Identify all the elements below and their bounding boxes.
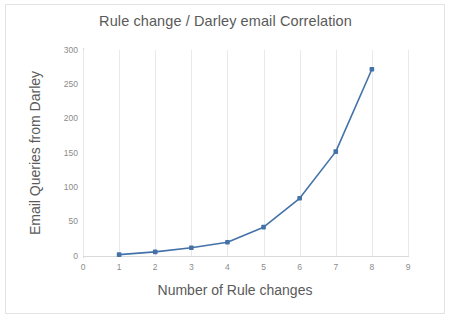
x-axis-title: Number of Rule changes: [60, 282, 410, 298]
series-line: [119, 69, 372, 254]
x-tick-label: 2: [145, 262, 165, 272]
y-axis-tick-labels: 050100150200250300: [52, 50, 78, 256]
chart-title: Rule change / Darley email Correlation: [0, 13, 451, 29]
chart-screenshot: Rule change / Darley email Correlation 0…: [0, 0, 451, 322]
y-tick-label: 100: [54, 183, 78, 192]
y-tick-label: 150: [54, 149, 78, 158]
line-series: [83, 50, 408, 256]
x-axis-tick-labels: 0123456789: [83, 262, 408, 274]
y-tick-label: 0: [54, 252, 78, 261]
x-tick-label: 1: [109, 262, 129, 272]
data-point-marker: [153, 250, 158, 255]
gridline-vertical: [408, 50, 409, 256]
y-axis-title: Email Queries from Darley: [27, 48, 43, 258]
x-axis-line: [83, 256, 409, 257]
y-tick-label: 250: [54, 80, 78, 89]
x-tick-label: 5: [254, 262, 274, 272]
x-tick-label: 6: [290, 262, 310, 272]
x-tick-label: 8: [362, 262, 382, 272]
x-tick-label: 7: [326, 262, 346, 272]
x-tick-label: 3: [181, 262, 201, 272]
y-tick-label: 200: [54, 114, 78, 123]
data-point-marker: [333, 149, 338, 154]
data-point-marker: [117, 252, 122, 257]
x-tick-label: 4: [217, 262, 237, 272]
data-point-marker: [261, 225, 266, 230]
x-tick-label: 0: [73, 262, 93, 272]
plot-area: [83, 50, 408, 256]
y-tick-label: 50: [54, 217, 78, 226]
data-point-marker: [370, 67, 375, 72]
x-tick-label: 9: [398, 262, 418, 272]
data-point-marker: [225, 240, 230, 245]
data-point-marker: [297, 196, 302, 201]
data-point-marker: [189, 245, 194, 250]
y-tick-label: 300: [54, 46, 78, 55]
